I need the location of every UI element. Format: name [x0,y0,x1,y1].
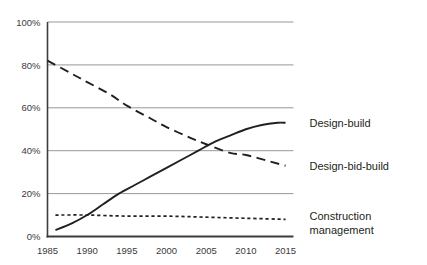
series-label-design-bid-build: Design-bid-build [310,160,390,172]
x-tick-label: 2015 [275,245,296,256]
y-tick-label: 100% [16,17,41,28]
y-tick-label: 0% [27,231,41,242]
y-tick-label: 20% [21,188,41,199]
y-tick-label: 60% [21,102,41,113]
series-label-design-build: Design-build [310,117,371,129]
line-chart: 0%20%40%60%80%100% 198519901995200020052… [0,0,427,265]
y-tick-label: 80% [21,60,41,71]
series-label-construction-management-line1: Construction [310,210,372,222]
x-tick-label: 1990 [77,245,98,256]
chart-container: 0%20%40%60%80%100% 198519901995200020052… [0,0,427,265]
x-tick-label: 2005 [196,245,217,256]
y-tick-label: 40% [21,145,41,156]
x-tick-label: 1985 [37,245,58,256]
x-tick-label: 1995 [116,245,137,256]
series-label-construction-management-line2: management [310,224,374,236]
x-tick-label: 2000 [156,245,177,256]
x-tick-label: 2010 [235,245,256,256]
